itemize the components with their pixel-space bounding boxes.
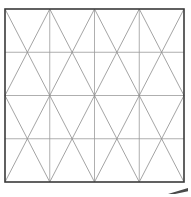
cell-diagonal [95,139,117,182]
cell-diagonal [72,9,94,52]
cell-diagonal [139,52,161,95]
cell-diagonal [162,139,184,182]
cell-diagonal [117,9,139,52]
cell-diagonal [117,139,139,182]
bottom-right-scuff-mark-icon [168,188,188,194]
cell-diagonal [72,96,94,139]
cell-diagonal [139,139,161,182]
cell-diagonal [95,52,117,95]
cell-diagonal [5,9,27,52]
cell-diagonal [27,9,49,52]
cell-diagonal [50,139,72,182]
cell-diagonal [5,96,27,139]
cell-diagonal [117,96,139,139]
cell-diagonal [139,9,161,52]
cell-diagonal [50,96,72,139]
triangular-lattice-figure [0,0,191,197]
cell-diagonal [117,52,139,95]
cell-diagonal [95,96,117,139]
cell-diagonal [50,52,72,95]
cell-diagonal [27,96,49,139]
cell-diagonal [162,52,184,95]
cell-diagonal [72,52,94,95]
cell-diagonal [50,9,72,52]
cell-diagonal [27,139,49,182]
cell-diagonal [162,9,184,52]
cell-diagonal [162,96,184,139]
cell-diagonal [27,52,49,95]
cell-diagonal [5,139,27,182]
cell-diagonal [139,96,161,139]
cell-diagonal [95,9,117,52]
scuff-mark-shape [168,188,188,194]
diagram-canvas [0,0,191,197]
cell-diagonal [72,139,94,182]
cell-diagonal [5,52,27,95]
